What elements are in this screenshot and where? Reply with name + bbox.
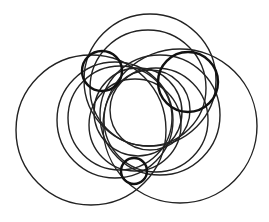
- circle-group: [16, 14, 257, 205]
- circle-small-left: [82, 51, 122, 91]
- circle-center-lens-left: [94, 68, 182, 156]
- circles-diagram: [0, 0, 269, 222]
- circle-small-right: [158, 52, 218, 112]
